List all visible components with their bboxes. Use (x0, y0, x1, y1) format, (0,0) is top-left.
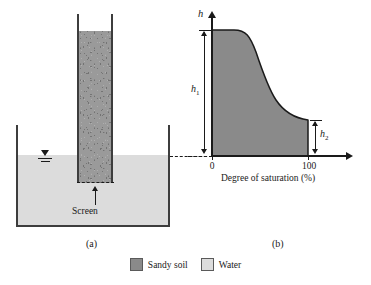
legend-item-water: Water (201, 258, 241, 271)
screen-pointer-arrow (92, 186, 99, 205)
caption-panel-a: (a) (86, 238, 97, 249)
capillary-rise-figure: Screen (a) h 0 100 Degree of saturation … (0, 0, 371, 285)
legend: Sandy soil Water (0, 258, 371, 271)
x-axis-title: Degree of saturation (%) (221, 173, 315, 183)
h2-label-sub: 2 (325, 134, 329, 142)
screen-arrow-stem (95, 190, 96, 205)
tank-right-wall (168, 125, 170, 227)
water-level-connector-right (188, 156, 212, 157)
legend-label-water: Water (219, 260, 241, 270)
legend-swatch-sandy-soil (130, 258, 143, 271)
h1-dimension-line (204, 32, 205, 150)
h1-label: h1 (191, 83, 200, 97)
water-table-triangle-icon (41, 150, 49, 156)
tank-left-wall (16, 125, 18, 227)
legend-swatch-water (201, 258, 214, 271)
tube-left-wall (77, 14, 79, 183)
tube-right-wall (111, 14, 113, 183)
h1-label-sub: 1 (196, 89, 200, 97)
h1-arrow-down-icon (201, 149, 207, 154)
x-ticklabel-100: 100 (297, 161, 321, 171)
water-table-symbol (38, 150, 52, 162)
y-axis-line (211, 18, 212, 156)
saturation-curve-area (212, 12, 352, 162)
y-axis-label: h (198, 8, 203, 19)
x-tick-100 (308, 157, 309, 161)
x-axis-line (211, 155, 347, 156)
screen-label: Screen (72, 206, 98, 216)
legend-label-sandy-soil: Sandy soil (148, 260, 188, 270)
screen-line (77, 182, 114, 183)
h2-arrow-down-icon (312, 149, 318, 154)
water-table-bar-lower (41, 161, 50, 162)
x-ticklabel-0: 0 (203, 161, 221, 171)
x-tick-0 (212, 157, 213, 161)
sandy-soil-column (79, 31, 112, 183)
water-table-bar-upper (38, 158, 52, 159)
y-axis-arrowhead-icon (208, 11, 216, 18)
h2-label: h2 (320, 128, 329, 142)
tank-bottom-wall (16, 225, 170, 227)
caption-panel-b: (b) (272, 238, 284, 249)
x-axis-arrowhead-icon (346, 152, 353, 160)
legend-item-sandy-soil: Sandy soil (130, 258, 188, 271)
h2-dimension-line (315, 122, 316, 150)
